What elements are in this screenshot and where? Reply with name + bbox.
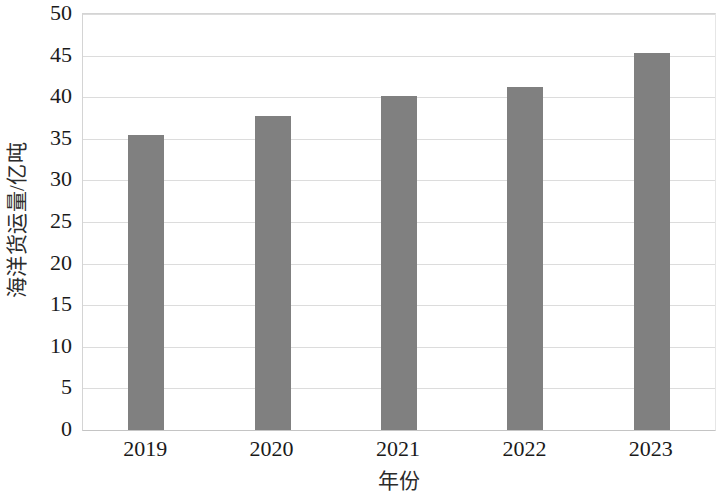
y-axis-tick-label: 35 bbox=[50, 127, 72, 149]
x-axis-tick-label: 2021 bbox=[376, 436, 420, 462]
y-axis-tick-label: 45 bbox=[50, 44, 72, 66]
bar bbox=[128, 135, 164, 430]
gridline bbox=[83, 430, 715, 431]
y-axis-tick-label: 40 bbox=[50, 85, 72, 107]
bar bbox=[634, 53, 670, 430]
x-axis-tick-label: 2019 bbox=[123, 436, 167, 462]
bar bbox=[255, 116, 291, 430]
bars-group bbox=[83, 14, 715, 430]
y-axis-tick-label: 0 bbox=[61, 418, 72, 440]
x-axis-title-label: 年份 bbox=[378, 469, 420, 493]
y-axis-tick-label: 15 bbox=[50, 293, 72, 315]
y-axis-tick-label: 25 bbox=[50, 210, 72, 232]
y-axis-title-label: 海洋货运量/亿吨 bbox=[0, 142, 30, 299]
bar bbox=[507, 87, 543, 430]
y-axis-title: 海洋货运量/亿吨 bbox=[0, 0, 30, 440]
bar-chart: 海洋货运量/亿吨 05101520253035404550 2019202020… bbox=[0, 0, 724, 494]
bar bbox=[381, 96, 417, 430]
x-axis-tick-label: 2022 bbox=[502, 436, 546, 462]
y-axis-tick-label: 10 bbox=[50, 335, 72, 357]
y-axis-tick-labels: 05101520253035404550 bbox=[28, 0, 76, 444]
x-axis-tick-label: 2020 bbox=[250, 436, 294, 462]
y-axis-tick-label: 50 bbox=[50, 2, 72, 24]
x-axis-title: 年份 bbox=[82, 464, 716, 494]
y-axis-tick-label: 5 bbox=[61, 376, 72, 398]
x-axis-tick-label: 2023 bbox=[629, 436, 673, 462]
plot-area bbox=[82, 13, 716, 431]
y-axis-tick-label: 20 bbox=[50, 252, 72, 274]
y-axis-tick-label: 30 bbox=[50, 168, 72, 190]
